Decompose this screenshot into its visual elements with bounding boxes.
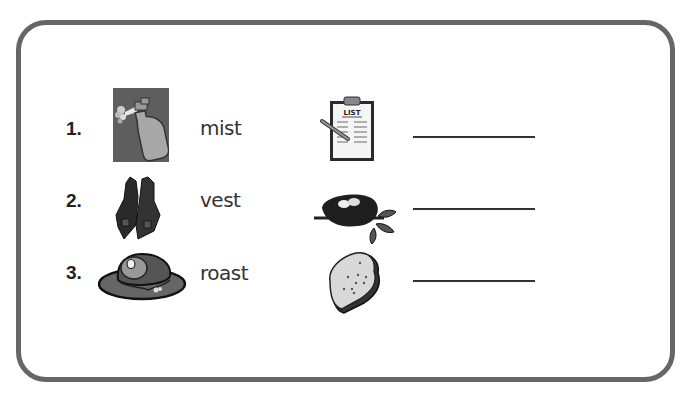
word-vest: vest (200, 188, 240, 212)
svg-text:LIST: LIST (344, 109, 361, 117)
answer-line-3[interactable] (413, 280, 535, 282)
row-number-3: 3. (66, 262, 82, 284)
toast-icon (326, 251, 384, 319)
row-number-2: 2. (66, 190, 82, 212)
spray-bottle-icon (113, 88, 169, 166)
answer-line-2[interactable] (413, 208, 535, 210)
roast-icon (98, 250, 188, 306)
word-mist: mist (200, 116, 241, 140)
word-roast: roast (200, 261, 248, 285)
clipboard-list-icon: LIST (320, 95, 378, 167)
answer-line-1[interactable] (413, 136, 535, 138)
bird-nest-icon (314, 188, 398, 248)
vest-icon (114, 175, 164, 245)
row-number-1: 1. (66, 118, 82, 140)
